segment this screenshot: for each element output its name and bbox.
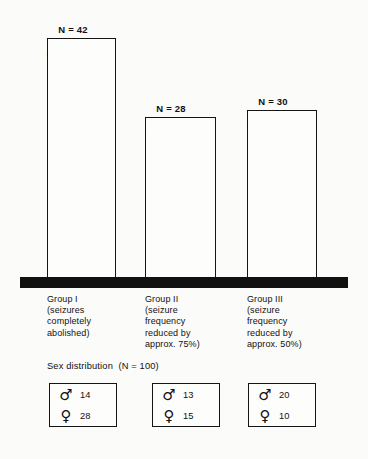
sex-distribution-title: Sex distribution (N = 100) <box>47 361 159 371</box>
sex-distribution-box-group-3: ♂ 20 ♀ 10 <box>248 383 316 427</box>
female-icon: ♀ <box>50 409 80 424</box>
sex-row-male: ♂ 13 <box>153 384 219 406</box>
sex-distribution-box-group-2: ♂ 13 ♀ 15 <box>152 383 220 427</box>
bar-1-n-label: N = 42 <box>58 24 87 35</box>
female-count: 10 <box>279 411 290 421</box>
sex-row-female: ♀ 28 <box>50 405 116 427</box>
female-count: 28 <box>80 411 91 421</box>
sex-row-male: ♂ 20 <box>249 384 315 406</box>
sex-row-female: ♀ 15 <box>153 405 219 427</box>
female-count: 15 <box>183 411 194 421</box>
sex-row-male: ♂ 14 <box>50 384 116 406</box>
male-icon: ♂ <box>153 388 183 403</box>
group-caption-3: Group III (seizure frequency reduced by … <box>247 294 352 350</box>
chart-figure: N = 42 42% N = 28 28% N = 30 30% Group I… <box>0 0 368 459</box>
bar-group-3 <box>247 110 317 278</box>
bar-group-1 <box>47 38 116 278</box>
female-icon: ♀ <box>249 409 279 424</box>
bar-2-n-label: N = 28 <box>156 103 185 114</box>
male-count: 14 <box>80 390 91 400</box>
group-caption-2: Group II (seizure frequency reduced by a… <box>145 294 245 350</box>
female-icon: ♀ <box>153 409 183 424</box>
male-icon: ♂ <box>50 388 80 403</box>
baseline-axis <box>20 277 348 288</box>
male-icon: ♂ <box>249 388 279 403</box>
sex-distribution-box-group-1: ♂ 14 ♀ 28 <box>49 383 117 427</box>
bar-group-2 <box>145 117 216 278</box>
male-count: 20 <box>279 390 290 400</box>
group-caption-1: Group I (seizures completely abolished) <box>47 294 142 339</box>
sex-row-female: ♀ 10 <box>249 405 315 427</box>
bar-3-n-label: N = 30 <box>258 96 287 107</box>
male-count: 13 <box>183 390 194 400</box>
